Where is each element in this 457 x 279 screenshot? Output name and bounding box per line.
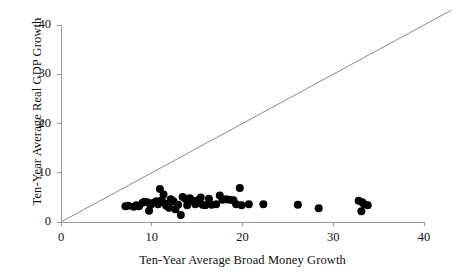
forty-five-degree-line-icon [61,10,451,222]
data-point [174,201,182,209]
data-point [177,211,185,219]
data-point [197,193,205,201]
data-point [315,204,323,212]
data-point [238,201,246,209]
data-point [259,200,267,208]
scatter-chart-figure: Ten-Year Average Real GDP Growth Ten-Yea… [0,0,457,279]
data-point [236,184,244,192]
data-point [357,207,365,215]
data-point [245,200,253,208]
data-point [160,190,168,198]
plot-canvas [0,0,457,279]
data-point [294,201,302,209]
data-point-group [121,184,371,219]
data-point [364,201,372,209]
